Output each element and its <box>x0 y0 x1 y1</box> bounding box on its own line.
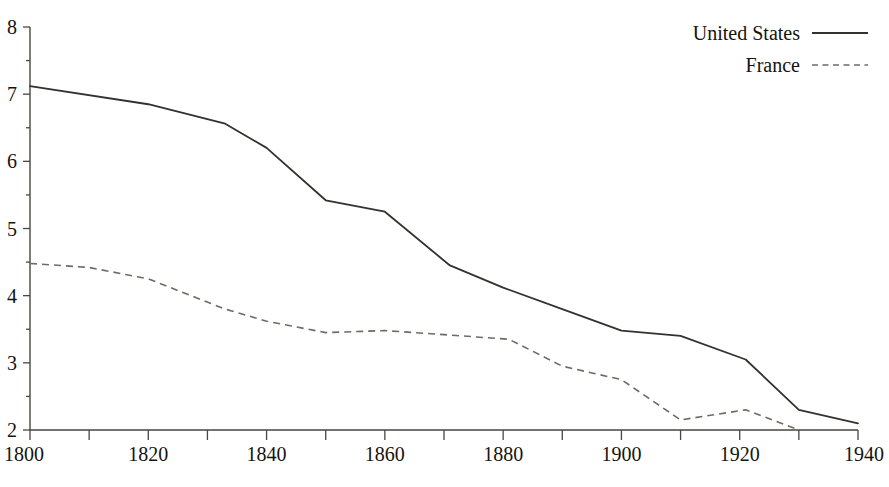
y-axis-tick-label: 3 <box>7 352 17 374</box>
chart-series-group <box>30 86 858 430</box>
x-axis-tick-label: 1820 <box>128 443 168 465</box>
chart-legend: United StatesFrance <box>693 22 868 76</box>
y-axis-tick-label: 8 <box>7 16 17 38</box>
x-axis-tick-label: 1900 <box>601 443 641 465</box>
axis-lines <box>30 27 858 430</box>
x-axis-tick-label: 1800 <box>4 443 44 465</box>
x-axis-tick-label: 1940 <box>844 443 884 465</box>
x-axis-tick-label: 1840 <box>247 443 287 465</box>
series-line-france <box>30 263 799 430</box>
chart-canvas: 2345678 18001820184018601880190019201940… <box>0 0 889 487</box>
line-chart: 2345678 18001820184018601880190019201940… <box>0 0 889 487</box>
chart-tick-marks <box>23 27 858 440</box>
legend-label-france: France <box>746 54 801 76</box>
chart-axes <box>30 27 858 430</box>
y-axis-tick-labels: 2345678 <box>7 16 17 441</box>
series-line-united-states <box>30 86 858 423</box>
x-axis-tick-label: 1880 <box>483 443 523 465</box>
x-axis-tick-label: 1860 <box>365 443 405 465</box>
x-axis-tick-labels: 18001820184018601880190019201940 <box>4 443 884 465</box>
x-axis-tick-label: 1920 <box>720 443 760 465</box>
y-axis-tick-label: 5 <box>7 218 17 240</box>
y-axis-tick-label: 7 <box>7 83 17 105</box>
legend-label-united-states: United States <box>693 22 800 44</box>
y-axis-tick-label: 4 <box>7 285 17 307</box>
y-axis-tick-label: 2 <box>7 419 17 441</box>
y-axis-tick-label: 6 <box>7 150 17 172</box>
